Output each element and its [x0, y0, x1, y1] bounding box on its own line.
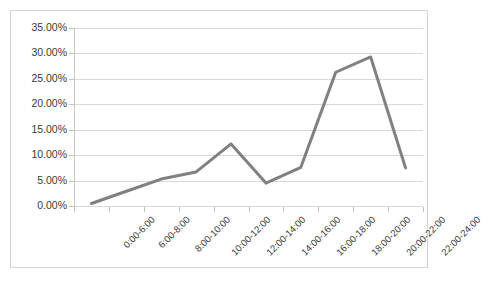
y-axis-tick [69, 104, 74, 105]
x-axis-tick [388, 207, 389, 212]
x-axis-tick [283, 207, 284, 212]
y-axis-tick [69, 79, 74, 80]
x-axis-tick [353, 207, 354, 212]
series-polyline [91, 57, 405, 203]
x-axis-tick [179, 207, 180, 212]
x-axis-tick [144, 207, 145, 212]
x-axis-tick [109, 207, 110, 212]
y-axis-tick [69, 130, 74, 131]
y-axis-tick [69, 181, 74, 182]
x-axis-tick [249, 207, 250, 212]
x-axis-tick [423, 207, 424, 212]
y-axis-tick [69, 53, 74, 54]
y-axis-tick [69, 155, 74, 156]
chart-plot-wrapper: 0.00%5.00%10.00%15.00%20.00%25.00%30.00%… [11, 11, 429, 269]
x-axis-tick [74, 207, 75, 212]
x-axis-tick [214, 207, 215, 212]
x-axis-tick [318, 207, 319, 212]
y-axis-tick [69, 28, 74, 29]
chart-frame: 0.00%5.00%10.00%15.00%20.00%25.00%30.00%… [10, 10, 428, 268]
